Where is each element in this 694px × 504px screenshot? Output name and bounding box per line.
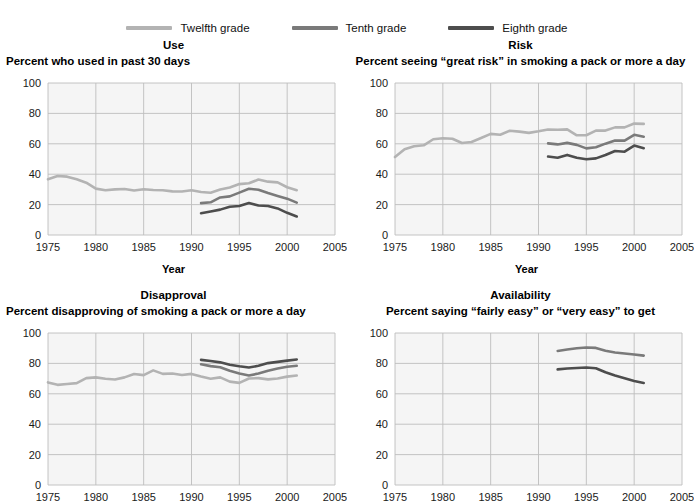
x-axis-tick-label: 2005	[670, 491, 694, 503]
x-axis-tick-label: 2005	[323, 491, 347, 503]
x-axis-label-use: Year	[0, 263, 347, 275]
x-axis-tick-label: 1985	[478, 491, 502, 503]
legend-swatch-eighth-grade	[448, 26, 494, 30]
x-axis-tick-label: 2000	[622, 491, 646, 503]
y-axis-tick-label: 80	[29, 107, 41, 119]
legend-label-eighth-grade: Eighth grade	[502, 22, 567, 34]
y-axis-tick-label: 20	[29, 199, 41, 211]
x-axis-tick-label: 1995	[574, 241, 598, 253]
y-axis-tick-label: 40	[29, 168, 41, 180]
panel-subtitle-disapproval: Percent disapproving of smoking a pack o…	[0, 304, 347, 319]
x-axis-tick-label: 1985	[131, 491, 155, 503]
x-axis-tick-label: 1975	[383, 241, 407, 253]
x-axis-tick-label: 2000	[622, 241, 646, 253]
legend-label-tenth-grade: Tenth grade	[346, 22, 407, 34]
plot-svg-risk: 0204060801001975198019851990199520002005	[347, 75, 694, 275]
x-axis-tick-label: 1980	[431, 491, 455, 503]
x-axis-tick-label: 1985	[478, 241, 502, 253]
y-axis-tick-label: 80	[376, 357, 388, 369]
y-axis-tick-label: 0	[382, 479, 388, 491]
y-axis-tick-label: 20	[29, 449, 41, 461]
x-axis-tick-label: 1975	[36, 241, 60, 253]
x-axis-tick-label: 1990	[526, 491, 550, 503]
x-axis-tick-label: 1975	[36, 491, 60, 503]
y-axis-tick-label: 100	[370, 77, 388, 89]
x-axis-tick-label: 1980	[431, 241, 455, 253]
plot-area-use: 0204060801001975198019851990199520002005…	[0, 75, 347, 275]
panel-subtitle-use: Percent who used in past 30 days	[0, 54, 347, 69]
panel-title-availability: Availability	[347, 288, 694, 302]
x-axis-label-risk: Year	[353, 263, 694, 275]
legend-item-tenth-grade: Tenth grade	[292, 22, 407, 34]
plot-area-risk: 0204060801001975198019851990199520002005…	[347, 75, 694, 275]
y-axis-tick-label: 60	[376, 388, 388, 400]
plot-area-availability: 0204060801001975198019851990199520002005	[347, 325, 694, 504]
y-axis-tick-label: 100	[23, 77, 41, 89]
panel-title-use: Use	[0, 38, 347, 52]
panel-availability: Availability Percent saying “fairly easy…	[347, 288, 694, 504]
y-axis-tick-label: 20	[376, 199, 388, 211]
legend-item-twelfth-grade: Twelfth grade	[126, 22, 249, 34]
legend-swatch-twelfth-grade	[126, 26, 172, 30]
x-axis-tick-label: 2000	[275, 491, 299, 503]
plot-svg-disapproval: 0204060801001975198019851990199520002005	[0, 325, 347, 504]
legend-swatch-tenth-grade	[292, 26, 338, 30]
x-axis-tick-label: 1990	[179, 241, 203, 253]
y-axis-tick-label: 60	[29, 388, 41, 400]
y-axis-tick-label: 0	[35, 229, 41, 241]
y-axis-tick-label: 60	[376, 138, 388, 150]
y-axis-tick-label: 40	[376, 168, 388, 180]
y-axis-tick-label: 40	[376, 418, 388, 430]
x-axis-tick-label: 1975	[383, 491, 407, 503]
x-axis-tick-label: 1995	[227, 491, 251, 503]
x-axis-tick-label: 2005	[323, 241, 347, 253]
y-axis-tick-label: 0	[382, 229, 388, 241]
panel-disapproval: Disapproval Percent disapproving of smok…	[0, 288, 347, 504]
y-axis-tick-label: 40	[29, 418, 41, 430]
y-axis-tick-label: 80	[29, 357, 41, 369]
panel-subtitle-availability: Percent saying “fairly easy” or “very ea…	[347, 304, 694, 319]
chart-legend: Twelfth grade Tenth grade Eighth grade	[0, 18, 694, 38]
x-axis-tick-label: 1985	[131, 241, 155, 253]
x-axis-tick-label: 1990	[526, 241, 550, 253]
y-axis-tick-label: 80	[376, 107, 388, 119]
panel-title-disapproval: Disapproval	[0, 288, 347, 302]
legend-item-eighth-grade: Eighth grade	[448, 22, 567, 34]
x-axis-tick-label: 1980	[84, 241, 108, 253]
x-axis-tick-label: 1980	[84, 491, 108, 503]
panel-risk: Risk Percent seeing “great risk” in smok…	[347, 38, 694, 275]
panel-title-risk: Risk	[347, 38, 694, 52]
x-axis-tick-label: 1990	[179, 491, 203, 503]
plot-area-disapproval: 0204060801001975198019851990199520002005	[0, 325, 347, 504]
plot-svg-use: 0204060801001975198019851990199520002005	[0, 75, 347, 275]
y-axis-tick-label: 100	[370, 327, 388, 339]
y-axis-tick-label: 100	[23, 327, 41, 339]
panel-use: Use Percent who used in past 30 days 020…	[0, 38, 347, 275]
y-axis-tick-label: 60	[29, 138, 41, 150]
panel-subtitle-risk: Percent seeing “great risk” in smoking a…	[347, 54, 694, 69]
y-axis-tick-label: 20	[376, 449, 388, 461]
legend-label-twelfth-grade: Twelfth grade	[180, 22, 249, 34]
x-axis-tick-label: 2005	[670, 241, 694, 253]
x-axis-tick-label: 1995	[227, 241, 251, 253]
x-axis-tick-label: 2000	[275, 241, 299, 253]
x-axis-tick-label: 1995	[574, 491, 598, 503]
y-axis-tick-label: 0	[35, 479, 41, 491]
plot-svg-availability: 0204060801001975198019851990199520002005	[347, 325, 694, 504]
